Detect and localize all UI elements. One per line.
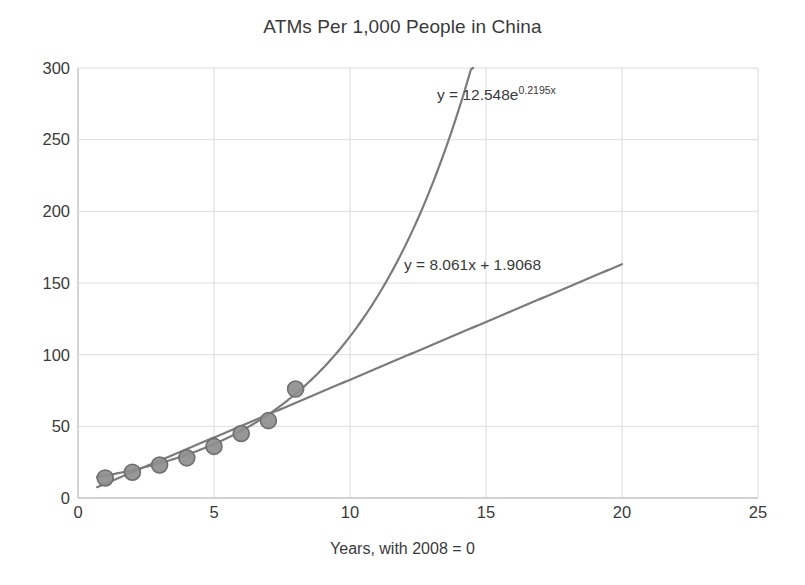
data-point-markers	[97, 381, 303, 486]
data-point-marker	[97, 470, 113, 486]
plot-area	[0, 0, 805, 585]
linear-trendline	[97, 264, 622, 487]
exponential-equation-exponent: 0.2195x	[518, 84, 555, 96]
data-point-marker	[260, 413, 276, 429]
data-point-marker	[124, 464, 140, 480]
gridlines	[78, 68, 758, 498]
exponential-equation-label: y = 12.548e0.2195x	[437, 86, 556, 104]
data-point-marker	[206, 438, 222, 454]
linear-equation-base: y = 8.061x + 1.9068	[404, 256, 541, 273]
data-point-marker	[233, 426, 249, 442]
x-axis-label: Years, with 2008 = 0	[0, 540, 805, 558]
exponential-equation-base: y = 12.548e	[437, 86, 518, 103]
data-point-marker	[288, 381, 304, 397]
data-point-marker	[152, 457, 168, 473]
chart-container: ATMs Per 1,000 People in China 300 250 2…	[0, 0, 805, 585]
trendlines	[97, 68, 622, 487]
data-point-marker	[179, 450, 195, 466]
linear-equation-label: y = 8.061x + 1.9068	[404, 256, 541, 274]
